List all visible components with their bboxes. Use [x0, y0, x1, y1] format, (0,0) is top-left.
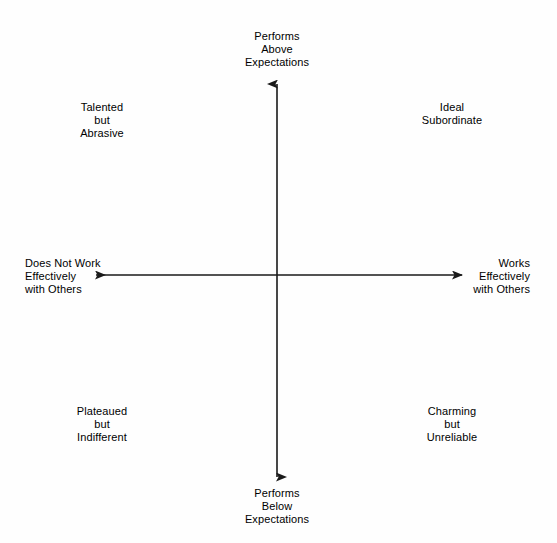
axis-label-performs-above-expectations: Performs Above Expectations: [217, 30, 337, 70]
quadrant-label-charming-but-unreliable: Charming but Unreliable: [407, 405, 497, 445]
axis-label-does-not-work-effectively-with-others: Does Not Work Effectively with Others: [25, 257, 135, 297]
quadrant-label-talented-but-abrasive: Talented but Abrasive: [57, 101, 147, 141]
quadrant-diagram-canvas: Performs Above Expectations Performs Bel…: [0, 0, 557, 543]
quadrant-label-ideal-subordinate: Ideal Subordinate: [407, 101, 497, 127]
quadrant-label-plateaued-but-indifferent: Plateaued but Indifferent: [57, 405, 147, 445]
axis-label-works-effectively-with-others: Works Effectively with Others: [420, 257, 530, 297]
axis-label-performs-below-expectations: Performs Below Expectations: [217, 487, 337, 527]
